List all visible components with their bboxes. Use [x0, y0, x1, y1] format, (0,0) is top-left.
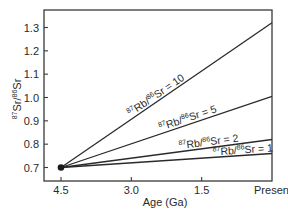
x-tick-label: 4.5 — [53, 184, 68, 196]
y-axis-title: 87Sr/86Sr — [11, 78, 23, 119]
origin-point-marker — [58, 164, 65, 171]
isochron-line-ratio-1 — [61, 154, 272, 168]
y-tick-label: 1.1 — [24, 68, 39, 80]
y-tick-label: 0.8 — [24, 138, 39, 150]
series-label-ratio-10: 87Rb/86Sr = 10 — [125, 71, 186, 118]
y-tick-label: 1.3 — [24, 22, 39, 34]
isochron-line-ratio-5 — [61, 96, 272, 167]
x-tick-label: Present — [254, 184, 288, 196]
y-tick-label: 0.9 — [24, 115, 39, 127]
y-tick-label: 1.0 — [24, 92, 39, 104]
x-axis-title: Age (Ga) — [143, 196, 188, 208]
x-tick-label: 3.0 — [124, 184, 139, 196]
x-axis-ticks: 4.53.01.5Present — [53, 177, 288, 196]
y-tick-label: 1.2 — [24, 45, 39, 57]
x-tick-label: 1.5 — [194, 184, 209, 196]
y-tick-label: 0.7 — [24, 162, 39, 174]
series-labels: 87Rb/86Sr = 1087Rb/86Sr = 587Rb/86Sr = 2… — [125, 71, 273, 157]
chart: 0.70.80.91.01.11.21.3 4.53.01.5Present 8… — [0, 0, 288, 219]
